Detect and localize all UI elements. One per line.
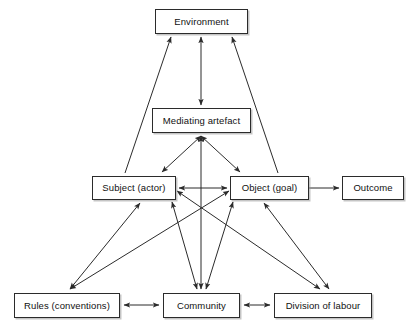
edge-subject-rules: [70, 203, 140, 289]
edge-mediatingartefact-subject: [162, 136, 201, 172]
node-rules[interactable]: Rules (conventions): [14, 293, 120, 318]
edge-subject-community: [172, 202, 197, 289]
edge-subject-environment: [125, 37, 171, 173]
node-division-of-labour[interactable]: Division of labour: [274, 293, 372, 318]
edge-subject-divisionoflabour: [177, 191, 320, 289]
node-division-of-labour-label: Division of labour: [283, 301, 364, 311]
node-environment-label: Environment: [171, 17, 231, 27]
node-subject-label: Subject (actor): [99, 183, 168, 193]
edge-object-community: [206, 202, 233, 289]
edge-mediatingartefact-object: [201, 136, 240, 172]
node-environment[interactable]: Environment: [155, 9, 248, 34]
edge-object-divisionoflabour: [264, 203, 329, 289]
node-mediating-artefact-label: Mediating artefact: [160, 116, 243, 126]
node-community-label: Community: [174, 301, 229, 311]
node-object-label: Object (goal): [239, 183, 301, 193]
node-object[interactable]: Object (goal): [230, 176, 309, 200]
diagram-edges-layer: [0, 0, 415, 336]
node-rules-label: Rules (conventions): [21, 301, 113, 311]
activity-theory-diagram: Environment Mediating artefact Subject (…: [0, 0, 415, 336]
edge-object-rules: [70, 191, 229, 289]
edge-object-environment: [232, 37, 278, 173]
node-subject[interactable]: Subject (actor): [92, 176, 176, 200]
node-community[interactable]: Community: [163, 293, 240, 318]
node-mediating-artefact[interactable]: Mediating artefact: [152, 108, 251, 133]
node-outcome-label: Outcome: [350, 183, 395, 193]
node-outcome[interactable]: Outcome: [342, 176, 404, 200]
